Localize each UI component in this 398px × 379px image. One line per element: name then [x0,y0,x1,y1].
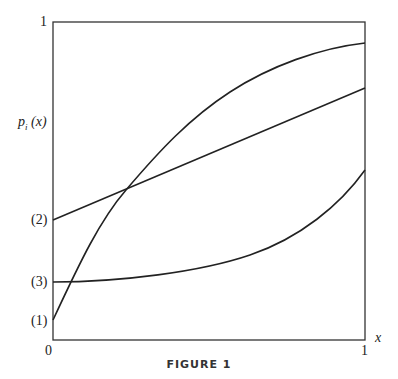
plot-area [0,0,398,379]
curve-1 [53,43,365,320]
label-curve-3: (3) [31,275,47,289]
y-tick-1: 1 [40,15,47,29]
y-axis-label-arg: (x) [31,114,47,129]
y-axis-label-sub: i [25,122,28,132]
y-axis-label-p: p [18,114,25,129]
figure-caption: FIGURE 1 [0,358,398,371]
x-tick-0: 0 [45,344,52,358]
label-curve-2: (2) [31,213,47,227]
x-tick-1: 1 [361,344,368,358]
y-axis-label: pi (x) [18,115,47,134]
x-axis-label: x [375,331,381,345]
plot-frame [53,22,365,340]
label-curve-1: (1) [31,314,47,328]
